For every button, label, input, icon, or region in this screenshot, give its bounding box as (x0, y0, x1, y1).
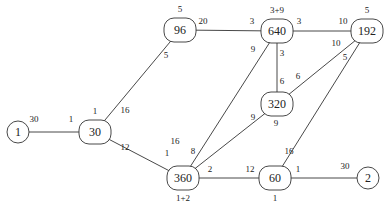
edge-weight: 10 (332, 38, 342, 48)
node-1: 1 (7, 121, 29, 143)
edge-weight: 12 (121, 142, 130, 152)
node-60: 601 (259, 166, 291, 203)
edges: 30116512120331036916106516989212130 (18, 16, 368, 178)
edge-weight: 12 (246, 164, 255, 174)
edge-n320-n360 (183, 104, 277, 178)
node-label: 1 (15, 125, 21, 139)
node-label: 640 (268, 24, 286, 38)
node-192: 1925 (351, 5, 383, 43)
node-label: 360 (174, 171, 192, 185)
node-top-label: 5 (365, 5, 370, 15)
edge-weight: 16 (285, 146, 295, 156)
edge-weight: 16 (121, 105, 131, 115)
node-label: 320 (268, 97, 286, 111)
edge-weight: 30 (341, 161, 351, 171)
edge-weight: 16 (171, 136, 181, 146)
edge-weight: 3 (250, 16, 255, 26)
edge-weight: 5 (343, 52, 348, 62)
node-label: 30 (89, 125, 101, 139)
nodes: 13019656403+919253203601+26012 (7, 4, 383, 203)
edge-weight: 6 (296, 71, 301, 81)
node-96: 965 (164, 4, 196, 42)
graph-diagram: 30116512120331036916106516989212130 1301… (0, 0, 386, 203)
node-640: 6403+9 (261, 5, 293, 43)
edge-weight: 1 (69, 114, 74, 124)
edge-weight: 5 (164, 50, 169, 60)
node-top-label: 5 (178, 4, 183, 14)
edge-weight: 8 (191, 146, 196, 156)
edge-weight: 1 (296, 164, 301, 174)
edge-weight: 2 (208, 164, 213, 174)
edge-weight: 3 (280, 48, 285, 58)
node-label: 2 (365, 171, 371, 185)
node-label: 96 (174, 23, 186, 37)
edge-n30-n96 (95, 30, 180, 132)
node-360: 3601+2 (167, 166, 199, 203)
edge-weight: 10 (339, 16, 349, 26)
node-label: 60 (269, 171, 281, 185)
edge-weight: 6 (280, 76, 285, 86)
node-top-label: 1 (93, 106, 98, 116)
edge-weight: 9 (274, 118, 279, 128)
node-30: 301 (79, 106, 111, 144)
edge-n192-n320 (277, 31, 367, 104)
edge-weight: 3 (297, 16, 302, 26)
edge-weight: 9 (251, 112, 256, 122)
node-bottom-label: 1+2 (176, 193, 190, 203)
node-320: 320 (261, 92, 293, 116)
edge-weight: 30 (30, 114, 40, 124)
node-label: 192 (358, 24, 376, 38)
node-2: 2 (357, 167, 379, 189)
node-top-label: 3+9 (270, 5, 285, 15)
edge-weight: 9 (251, 44, 256, 54)
edge-weight: 1 (165, 148, 170, 158)
edge-weight: 20 (199, 16, 209, 26)
node-bottom-label: 1 (273, 193, 278, 203)
